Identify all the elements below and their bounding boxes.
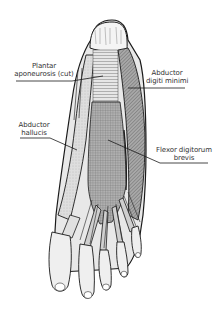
label-plantar-aponeurosis: Plantar aponeurosis (cut) xyxy=(14,62,74,78)
label-line-2: hallucis xyxy=(16,129,52,137)
second-toe xyxy=(79,244,95,298)
label-abductor-digiti-minimi: Abductor digiti minimi xyxy=(146,69,188,85)
flexor-digitorum-brevis-muscle xyxy=(88,102,126,224)
big-toe xyxy=(49,232,71,291)
label-line-1: Abductor xyxy=(16,121,52,129)
label-line-2: brevis xyxy=(156,154,212,162)
label-abductor-hallucis: Abductor hallucis xyxy=(16,121,52,137)
plantar-aponeurosis-region xyxy=(93,50,118,102)
label-line-2: aponeurosis (cut) xyxy=(14,70,74,78)
label-line-1: Plantar xyxy=(14,62,74,70)
label-line-2: digiti minimi xyxy=(146,77,188,85)
label-line-1: Flexor digitorum xyxy=(156,146,212,154)
label-line-1: Abductor xyxy=(146,69,188,77)
label-flexor-digitorum-brevis: Flexor digitorum brevis xyxy=(156,146,212,162)
